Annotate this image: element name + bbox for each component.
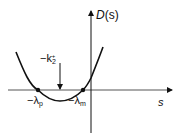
k2-label: −k2+ [40, 53, 55, 65]
diagram-canvas [0, 0, 179, 138]
k2-label-sup: + [52, 53, 56, 59]
y-axis-label-fn: D [96, 8, 105, 22]
lambda-p-prefix: −λ [27, 94, 39, 106]
k2-label-sub: 2 [52, 58, 56, 65]
root-marker-lambda-p [36, 88, 40, 92]
x-axis-label: s [158, 97, 164, 108]
root-marker-lambda-m [81, 88, 85, 92]
k2-label-prefix: −k [40, 52, 52, 64]
lambda-p-sub: p [39, 100, 43, 107]
lambda-p-label: −λp [27, 95, 43, 107]
lambda-m-label: −λm [68, 95, 86, 107]
y-axis-label-arg: (s) [105, 8, 119, 22]
lambda-m-sub: m [80, 100, 86, 107]
y-axis-label: D(s) [96, 9, 119, 21]
lambda-m-prefix: −λ [68, 94, 80, 106]
